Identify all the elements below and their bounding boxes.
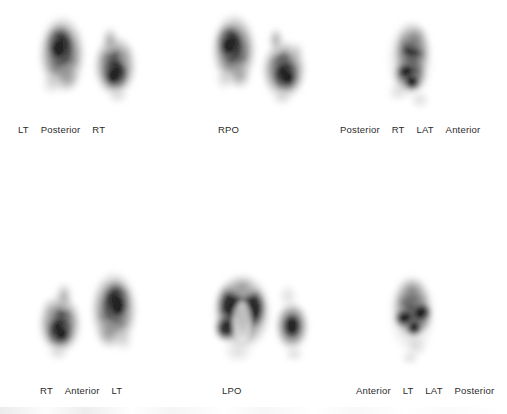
lung-scan-image-rpo: [196, 4, 324, 116]
label-row-lpo: LPO: [222, 385, 242, 396]
label-posterior-lt: LT: [18, 124, 29, 135]
label-row-anterior: RT Anterior LT: [40, 385, 122, 396]
scan-panel-anterior: [20, 258, 156, 372]
lung-scan-image-posterior: [18, 4, 154, 116]
scan-edge-artifact: [0, 407, 507, 414]
label-ltlat-posterior: Posterior: [455, 385, 495, 396]
label-anterior-mid: Anterior: [65, 385, 100, 396]
label-anterior-rt: RT: [40, 385, 53, 396]
scan-panel-rt-lat: [368, 8, 452, 116]
lung-scan-image-rt-lat: [368, 8, 452, 116]
scintigraphy-image-sheet: LT Posterior RT RPO Posterior RT LAT Ant…: [0, 0, 507, 414]
scan-panel-lt-lat: [370, 262, 454, 372]
label-row-posterior: LT Posterior RT: [18, 124, 105, 135]
label-rtlat-anterior: Anterior: [446, 124, 481, 135]
scan-panel-posterior: [18, 4, 154, 116]
label-row-rpo: RPO: [218, 124, 239, 135]
scan-panel-rpo: [196, 4, 324, 116]
label-lpo: LPO: [222, 385, 242, 396]
label-anterior-lt: LT: [111, 385, 122, 396]
label-rpo: RPO: [218, 124, 239, 135]
label-ltlat-lt: LT: [403, 385, 414, 396]
label-posterior-rt: RT: [92, 124, 105, 135]
label-rtlat-posterior: Posterior: [340, 124, 380, 135]
label-rtlat-lat: LAT: [416, 124, 433, 135]
lung-scan-image-anterior: [20, 258, 156, 372]
label-row-rt-lat: Posterior RT LAT Anterior: [340, 124, 480, 135]
lung-scan-image-lt-lat: [370, 262, 454, 372]
label-ltlat-lat: LAT: [425, 385, 442, 396]
label-ltlat-anterior: Anterior: [356, 385, 391, 396]
label-posterior-mid: Posterior: [41, 124, 81, 135]
label-row-lt-lat: Anterior LT LAT Posterior: [356, 385, 494, 396]
lung-scan-image-lpo: [196, 262, 326, 374]
scan-panel-lpo: [196, 262, 326, 374]
label-rtlat-rt: RT: [392, 124, 405, 135]
